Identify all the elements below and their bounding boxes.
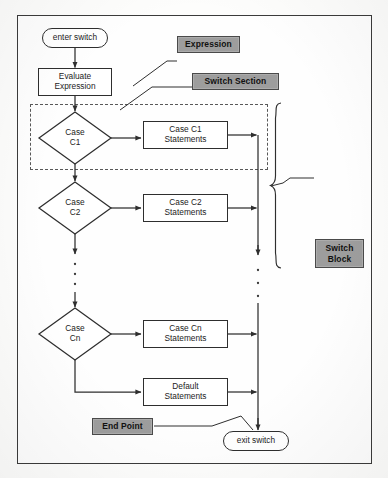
callout-switch-block[interactable]: Switch Block [315,239,364,268]
callout-switch-section[interactable]: Switch Section [192,73,279,90]
process-evaluate-expression[interactable]: Evaluate Expression [38,68,112,96]
terminator-enter-switch[interactable]: enter switch [42,28,108,48]
callout-expression[interactable]: Expression [177,36,240,53]
ellipsis-left-column [74,263,76,285]
decision-shape-case-c2 [39,182,111,234]
leader-line-switch-section [120,87,192,110]
leader-line-switch-block [271,178,314,186]
process-case-c2-statements[interactable]: Case C2 Statements [143,194,228,222]
decision-shape-case-cn [39,308,111,360]
decision-shape-case-c1 [39,112,111,164]
leader-line-end-point [154,416,253,430]
leader-line-expression [133,61,177,86]
process-default-statements[interactable]: Default Statements [143,378,228,406]
callout-end-point[interactable]: End Point [92,418,153,435]
terminator-exit-switch[interactable]: exit switch [223,431,289,451]
process-case-cn-statements[interactable]: Case Cn Statements [143,320,228,348]
ellipsis-right-rail [257,269,259,297]
screenshot-canvas: enter switch Evaluate Expression Case C1… [0,0,388,478]
edge-case-cn-to-default [75,360,141,392]
process-case-c1-statements[interactable]: Case C1 Statements [143,121,228,149]
